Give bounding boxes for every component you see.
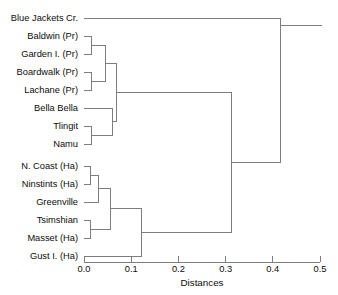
link-m12 bbox=[84, 209, 141, 256]
link-m1 bbox=[84, 36, 91, 54]
leaf-label-group: Blue Jackets Cr. Baldwin (Pr) Garden I. … bbox=[11, 13, 79, 261]
leaf-label-tsimshian: Tsimshian bbox=[37, 215, 78, 225]
leaf-label-bella-bella: Bella Bella bbox=[34, 103, 79, 113]
axis-tick-label-5: 0.5 bbox=[314, 264, 327, 274]
link-m11 bbox=[90, 189, 110, 230]
link-m9 bbox=[84, 175, 98, 202]
leaf-label-boardwalk-pr: Boardwalk (Pr) bbox=[17, 67, 78, 77]
link-m3 bbox=[91, 45, 105, 81]
leaf-label-greenville: Greenville bbox=[36, 197, 78, 207]
link-m10 bbox=[84, 220, 90, 238]
leaf-label-masset-ha: Masset (Ha) bbox=[27, 233, 78, 243]
axis-tick-label-0: 0.0 bbox=[78, 264, 91, 274]
leaf-label-garden-i-pr: Garden I. (Pr) bbox=[21, 49, 78, 59]
dendrogram-figure: Blue Jackets Cr. Baldwin (Pr) Garden I. … bbox=[0, 0, 338, 295]
link-m13 bbox=[116, 92, 231, 232]
dendrogram-links bbox=[84, 18, 322, 256]
dendrogram-svg: Blue Jackets Cr. Baldwin (Pr) Garden I. … bbox=[0, 0, 338, 295]
leaf-label-blue-jackets-cr: Blue Jackets Cr. bbox=[11, 13, 78, 23]
x-axis-title: Distances bbox=[180, 277, 223, 288]
leaf-label-n-coast-ha: N. Coast (Ha) bbox=[21, 161, 78, 171]
link-m2 bbox=[84, 72, 91, 90]
axis-tick-label-3: 0.3 bbox=[219, 264, 232, 274]
axis-tick-label-1: 0.1 bbox=[125, 264, 138, 274]
link-m5 bbox=[84, 108, 112, 135]
leaf-label-tlingit: Tlingit bbox=[53, 121, 78, 131]
link-m6 bbox=[105, 63, 116, 122]
link-root bbox=[84, 18, 280, 162]
leaf-label-baldwin-pr: Baldwin (Pr) bbox=[27, 31, 78, 41]
leaf-label-namu: Namu bbox=[53, 139, 78, 149]
axis-tick-label-2: 0.2 bbox=[172, 264, 185, 274]
leaf-label-lachane-pr: Lachane (Pr) bbox=[24, 85, 78, 95]
link-m8 bbox=[84, 166, 90, 184]
x-axis: 0.0 0.1 0.2 0.3 0.4 0.5 Distances bbox=[78, 256, 327, 288]
link-m4 bbox=[84, 126, 91, 144]
axis-tick-label-4: 0.4 bbox=[266, 264, 279, 274]
leaf-label-gust-i-ha: Gust I. (Ha) bbox=[30, 251, 78, 261]
leaf-label-ninstints-ha: Ninstints (Ha) bbox=[22, 179, 78, 189]
